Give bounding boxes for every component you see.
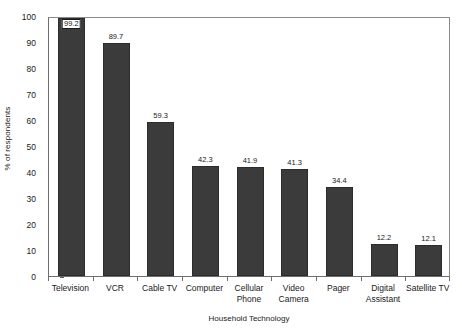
x-axis-tick-mark [316,277,317,281]
bar-group: 89.7 [103,18,130,276]
y-axis-tick-label: 30 [27,195,36,204]
bar-group: 59.3 [147,18,174,276]
x-axis-tick-marks [48,277,450,282]
x-axis-tick-mark [182,277,183,281]
y-axis-tick-label: 50 [27,143,36,152]
y-axis-tick-label: 10 [27,247,36,256]
x-axis-tick-mark [227,277,228,281]
bar-group: 99.2 [58,18,85,276]
bar [326,187,353,276]
bar-group: 41.9 [237,18,264,276]
bar [281,169,308,276]
bar [147,122,174,276]
y-axis-title-text: % of respondents [4,107,13,171]
bar-value-label: 59.3 [152,112,169,120]
x-axis-tick-mark [93,277,94,281]
x-axis-tick-mark [361,277,362,281]
bar-value-label: 41.3 [286,159,303,167]
y-axis-tick-label: 90 [27,39,36,48]
bar [415,245,442,276]
bar-value-label: 41.9 [242,157,259,165]
bar [371,244,398,276]
plot-area: 99.289.759.342.341.941.334.412.212.1 [48,17,450,277]
y-axis-tick-labels: 1009080706050403020100 [16,11,40,283]
bar-group: 42.3 [192,18,219,276]
bar [103,43,130,276]
bar-value-label: 99.2 [62,19,81,29]
bar-value-label: 89.7 [108,33,125,41]
x-axis-tick-labels: TelevisionVCRCable TVComputerCellular Ph… [48,283,450,315]
y-axis-tick-label: 20 [27,221,36,230]
bar-value-label: 12.1 [420,235,437,243]
bar-group: 12.2 [371,18,398,276]
bar-value-label: 42.3 [197,156,214,164]
y-axis-tick-label: 80 [27,65,36,74]
x-axis-tick-mark [405,277,406,281]
x-axis-title: Household Technology [48,314,450,324]
bar [192,166,219,276]
bars-layer: 99.289.759.342.341.941.334.412.212.1 [49,18,449,276]
y-axis-tick-label: 60 [27,117,36,126]
bar-group: 12.1 [415,18,442,276]
bar [237,167,264,276]
x-axis-tick-mark [449,277,450,281]
y-axis-tick-label: 100 [22,13,36,22]
x-axis-tick-mark [271,277,272,281]
bar-value-label: 12.2 [376,234,393,242]
x-axis-tick-mark [137,277,138,281]
x-axis-tick-mark [48,277,49,281]
x-axis-tick-label: Satellite TV [398,283,457,294]
bar-group: 41.3 [281,18,308,276]
bar [58,18,85,276]
bar-chart: % of respondents 1009080706050403020100 … [0,0,462,335]
y-axis-tick-label: 70 [27,91,36,100]
bar-value-label: 34.4 [331,177,348,185]
y-axis-tick-label: 40 [27,169,36,178]
y-axis-title: % of respondents [0,0,16,277]
bar-group: 34.4 [326,18,353,276]
y-axis-tick-label: 0 [31,273,36,282]
